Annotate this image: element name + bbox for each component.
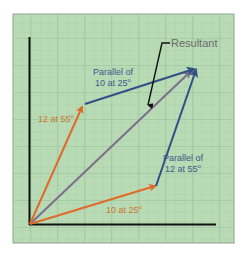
parallel-12-at-55-label-line1: Parallel of: [163, 153, 204, 163]
parallel-10-at-25-label-line1: Parallel of: [93, 67, 134, 77]
parallel-12-at-55-label-line2: 12 at 55o: [165, 163, 202, 174]
vector-12-at-55-label: 12 at 55o: [38, 113, 75, 124]
vector-10-at-25-label: 10 at 25o: [106, 204, 143, 215]
parallel-10-at-25-label-line2: 10 at 25o: [95, 77, 132, 88]
resultant-label: Resultant: [171, 37, 217, 49]
diagram-canvas: Resultant Parallel of 10 at 25o Parallel…: [0, 0, 250, 253]
vector-diagram: Resultant Parallel of 10 at 25o Parallel…: [0, 0, 250, 253]
